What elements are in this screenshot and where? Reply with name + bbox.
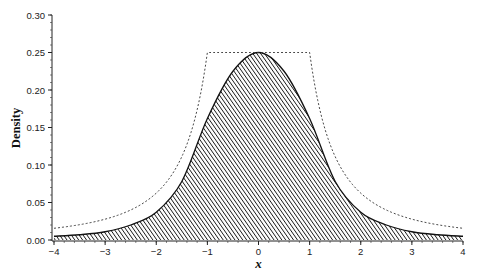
y-tick-label: 0.05: [27, 197, 46, 208]
plot-area: [54, 53, 463, 241]
x-tick-label: −3: [100, 246, 111, 257]
density-chart: 0.000.050.100.150.200.250.30−4−3−2−10123…: [0, 0, 479, 277]
y-axis-title: Density: [9, 107, 23, 148]
y-tick-label: 0.00: [27, 235, 46, 246]
y-tick-label: 0.20: [27, 85, 46, 96]
y-tick-label: 0.30: [27, 10, 46, 21]
x-tick-label: 1: [307, 246, 312, 257]
x-tick-label: −4: [49, 246, 60, 257]
y-tick-label: 0.15: [27, 122, 46, 133]
y-tick-label: 0.10: [27, 160, 46, 171]
x-tick-label: −2: [151, 246, 162, 257]
x-tick-label: 2: [358, 246, 363, 257]
x-axis-title: x: [254, 256, 262, 271]
density-area: [54, 53, 463, 241]
x-tick-label: 4: [460, 246, 465, 257]
y-tick-label: 0.25: [27, 47, 46, 58]
x-tick-label: 3: [409, 246, 414, 257]
x-tick-label: −1: [202, 246, 213, 257]
